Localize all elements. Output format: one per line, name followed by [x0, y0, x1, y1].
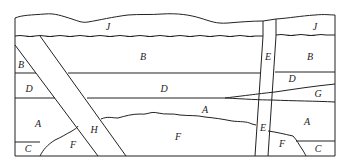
- label-A-main: A: [202, 105, 208, 115]
- unconformity-J: [15, 36, 263, 37]
- label-A-left: A: [35, 119, 41, 129]
- label-B-main: B: [140, 52, 146, 62]
- label-B-left: B: [18, 60, 24, 70]
- cross-section-diagram: J J B B B E D D D G A A A H F F F E C C: [0, 0, 351, 164]
- label-D-right: D: [288, 74, 295, 84]
- label-D-left: D: [25, 84, 32, 94]
- label-F-right: F: [279, 139, 285, 149]
- intrusion-F-right: [268, 131, 306, 156]
- label-J-left: J: [106, 22, 110, 32]
- label-D-main: D: [160, 84, 167, 94]
- label-A-right: A: [304, 117, 310, 127]
- label-F-left: F: [70, 140, 76, 150]
- label-E-lower: E: [260, 123, 266, 133]
- label-C-right: C: [315, 144, 322, 154]
- label-J-right: J: [313, 22, 317, 32]
- dike-E-right: [268, 19, 276, 156]
- intrusion-F-main: [101, 112, 256, 125]
- label-G: G: [314, 89, 321, 99]
- land-surface: [15, 14, 335, 23]
- dike-E-left: [255, 21, 263, 156]
- label-C-left: C: [25, 144, 32, 154]
- label-F-main: F: [175, 132, 181, 142]
- label-B-right: B: [307, 52, 313, 62]
- unconformity-J-right: [276, 35, 335, 36]
- label-H: H: [90, 125, 97, 135]
- label-E-upper: E: [265, 52, 271, 62]
